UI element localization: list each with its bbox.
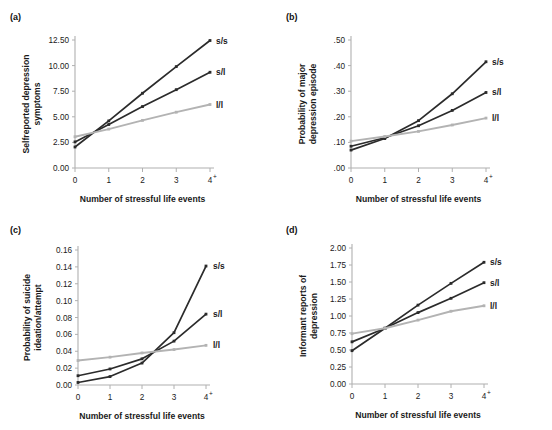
data-point-marker <box>450 310 453 313</box>
x-tick-superscript: + <box>213 173 217 180</box>
y-tick-label: 12.50 <box>49 36 70 45</box>
x-tick-label: 1 <box>108 393 113 402</box>
y-tick-label: .20 <box>334 113 346 122</box>
data-point-marker <box>109 368 112 371</box>
panel-d-plot: 0.000.250.500.751.001.251.501.752.000123… <box>276 215 552 430</box>
x-tick-label: 1 <box>106 176 111 185</box>
series-label-s-l: s/l <box>492 87 501 97</box>
x-tick-superscript: + <box>487 389 491 396</box>
panel-a-plot: 0.002.505.007.5010.0012.5001234+s/ss/ll/… <box>0 0 276 215</box>
y-tick-label: 1.75 <box>330 261 346 270</box>
data-point-marker <box>351 340 354 343</box>
data-point-marker <box>205 265 208 268</box>
data-point-marker <box>209 71 212 74</box>
y-tick-label: 5.00 <box>53 113 69 122</box>
series-label-s-l: s/l <box>213 309 222 319</box>
y-tick-label: 0.06 <box>56 330 72 339</box>
y-tick-label: 0.12 <box>56 280 72 289</box>
data-point-marker <box>141 362 144 365</box>
data-point-marker <box>141 352 144 355</box>
y-tick-label: 0.02 <box>56 364 72 373</box>
x-tick-label: 3 <box>450 176 455 185</box>
x-tick-superscript: + <box>209 390 213 397</box>
data-point-marker <box>141 119 144 122</box>
data-point-marker <box>74 146 77 149</box>
data-point-marker <box>417 319 420 322</box>
data-point-marker <box>417 124 420 127</box>
y-tick-label: 7.50 <box>53 87 69 96</box>
y-tick-label: 0.50 <box>330 346 346 355</box>
x-axis-title: Number of stressful life events <box>355 410 481 420</box>
data-point-marker <box>383 135 386 138</box>
data-point-marker <box>175 65 178 68</box>
x-tick-label: 2 <box>140 393 145 402</box>
x-tick-label: 0 <box>76 393 81 402</box>
series-label-l-l: l/l <box>216 100 223 110</box>
series-label-s-l: s/l <box>216 67 225 77</box>
y-tick-label: 0.25 <box>330 363 346 372</box>
series-label-l-l: l/l <box>213 340 220 350</box>
data-point-marker <box>107 128 110 131</box>
data-point-marker <box>483 304 486 307</box>
series-label-s-s: s/s <box>490 257 502 267</box>
x-tick-label: 4 <box>208 176 213 185</box>
panel-b: (b) .00.10.20.30.40.5001234+s/ss/ll/lNum… <box>276 0 552 215</box>
y-tick-label: 0.00 <box>56 381 72 390</box>
y-tick-label: .40 <box>334 62 346 71</box>
data-point-marker <box>77 374 80 377</box>
y-axis-title-line1: Selfreported depression <box>21 55 31 154</box>
data-point-marker <box>141 92 144 95</box>
x-tick-label: 3 <box>172 393 177 402</box>
series-line-s-s <box>351 62 486 150</box>
data-point-marker <box>77 381 80 384</box>
y-tick-label: 2.50 <box>53 138 69 147</box>
data-point-marker <box>205 344 208 347</box>
series-line-s-l <box>78 314 206 376</box>
data-point-marker <box>451 92 454 95</box>
x-tick-label: 4 <box>482 392 487 401</box>
y-axis-title-line1: Probability of suicide <box>22 274 32 361</box>
data-point-marker <box>350 140 353 143</box>
y-axis-title-line2: ideation/attempt <box>33 284 43 351</box>
data-point-marker <box>173 348 176 351</box>
data-point-marker <box>350 145 353 148</box>
data-point-marker <box>417 130 420 133</box>
data-point-marker <box>351 332 354 335</box>
data-point-marker <box>417 311 420 314</box>
y-axis-title-line2: symptoms <box>32 82 42 125</box>
data-point-marker <box>74 140 77 143</box>
x-tick-superscript: + <box>489 173 493 180</box>
series-label-s-s: s/s <box>492 57 504 67</box>
data-point-marker <box>483 261 486 264</box>
series-label-s-s: s/s <box>213 261 225 271</box>
y-tick-label: 0.00 <box>330 380 346 389</box>
y-tick-label: 0.75 <box>330 329 346 338</box>
y-tick-label: 0.14 <box>56 263 72 272</box>
y-tick-label: 10.00 <box>49 62 70 71</box>
data-point-marker <box>450 282 453 285</box>
y-tick-label: 0.10 <box>56 297 72 306</box>
x-axis-title: Number of stressful life events <box>356 194 482 204</box>
series-label-s-s: s/s <box>216 36 228 46</box>
data-point-marker <box>351 349 354 352</box>
x-axis-title: Number of stressful life events <box>79 411 205 421</box>
data-point-marker <box>209 103 212 106</box>
y-tick-label: .50 <box>334 36 346 45</box>
data-point-marker <box>451 124 454 127</box>
panel-d: (d) 0.000.250.500.751.001.251.501.752.00… <box>276 215 552 430</box>
data-point-marker <box>350 149 353 152</box>
data-point-marker <box>209 39 212 42</box>
series-line-s-s <box>78 266 206 382</box>
data-point-marker <box>417 119 420 122</box>
y-axis-title-line1: Informant reports of <box>298 275 308 357</box>
data-point-marker <box>175 88 178 91</box>
x-tick-label: 1 <box>383 392 388 401</box>
y-tick-label: .30 <box>334 87 346 96</box>
series-label-l-l: l/l <box>492 113 499 123</box>
x-tick-label: 0 <box>349 176 354 185</box>
x-tick-label: 1 <box>382 176 387 185</box>
x-tick-label: 0 <box>350 392 355 401</box>
x-tick-label: 4 <box>204 393 209 402</box>
data-point-marker <box>173 340 176 343</box>
y-tick-label: .10 <box>334 138 346 147</box>
